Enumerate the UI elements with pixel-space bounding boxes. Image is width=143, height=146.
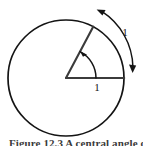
radius-length-label: 1 (94, 81, 100, 93)
slanted-radius-line (66, 27, 93, 78)
figure-caption-text: Figure 12.3 A central angle of one radia… (9, 139, 143, 146)
figure-container: 1 1 Figure 12.3 A central angle of one r… (0, 0, 143, 146)
outer-arc-arrow-path (102, 11, 133, 66)
arc-length-label: 1 (122, 26, 128, 38)
figure-caption-strip: Figure 12.3 A central angle of one radia… (0, 139, 143, 146)
outer-arc-arrowhead-bottom-icon (129, 65, 136, 73)
unit-circle-diagram: 1 1 (0, 0, 143, 146)
